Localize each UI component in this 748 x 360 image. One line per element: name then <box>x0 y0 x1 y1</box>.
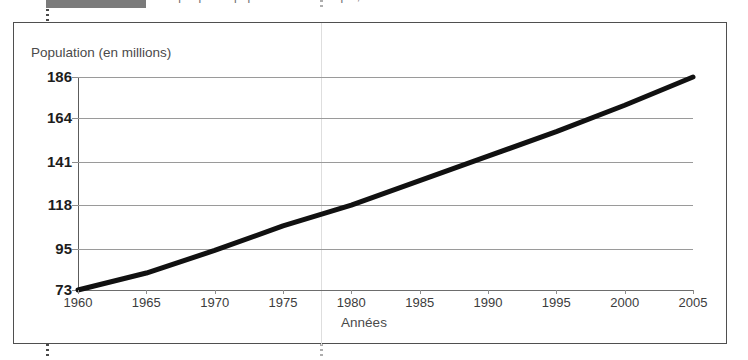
dotted-connector-mid-bottom <box>320 344 323 359</box>
x-axis-tick <box>625 290 626 294</box>
x-axis-tick <box>78 290 79 294</box>
x-axis-tick-labels: 1960196519701975198019851990199520002005 <box>78 295 718 315</box>
header-caption: Graphique — population du Mexique, 1960 … <box>158 0 431 3</box>
x-axis-tick <box>146 290 147 294</box>
y-axis-tick-label: 164 <box>32 109 72 126</box>
x-axis-tick <box>351 290 352 294</box>
clipped-header-strip: Graphique — population du Mexique, 1960 … <box>0 0 748 9</box>
x-axis-tick-label: 2005 <box>679 295 708 310</box>
x-axis-tick-label: 1995 <box>542 295 571 310</box>
x-axis-title-text: Années <box>341 315 387 330</box>
x-axis-tick <box>488 290 489 294</box>
dotted-connector-bottom <box>46 344 49 359</box>
y-axis-title: Population (en millions) <box>31 45 171 60</box>
y-axis-tick-label: 186 <box>32 68 72 85</box>
x-axis-tick-label: 1985 <box>405 295 434 310</box>
x-axis-tick-label: 1980 <box>337 295 366 310</box>
x-axis-tick-label: 1975 <box>269 295 298 310</box>
x-axis-tick <box>556 290 557 294</box>
header-badge <box>46 0 146 8</box>
y-axis-tick-label: 95 <box>32 240 72 257</box>
y-axis-tick-labels: 7395118141164186 <box>28 77 72 290</box>
x-axis-tick-label: 1965 <box>132 295 161 310</box>
y-axis-tick-label: 118 <box>32 196 72 213</box>
x-axis-tick <box>215 290 216 294</box>
dotted-connector-top <box>46 9 49 23</box>
x-axis-title: Années <box>14 315 728 330</box>
x-axis-tick-label: 2000 <box>610 295 639 310</box>
x-axis-tick-label: 1970 <box>200 295 229 310</box>
x-axis-tick <box>283 290 284 294</box>
figure-frame: Population (en millions) 739511814116418… <box>13 22 727 344</box>
x-axis-tick-label: 1990 <box>474 295 503 310</box>
x-axis-tick <box>420 290 421 294</box>
x-axis-tick-label: 1960 <box>64 295 93 310</box>
y-axis-tick-label: 141 <box>32 153 72 170</box>
x-axis-tick <box>693 290 694 294</box>
dotted-connector-mid-top <box>320 0 323 7</box>
population-line-series <box>78 77 693 290</box>
